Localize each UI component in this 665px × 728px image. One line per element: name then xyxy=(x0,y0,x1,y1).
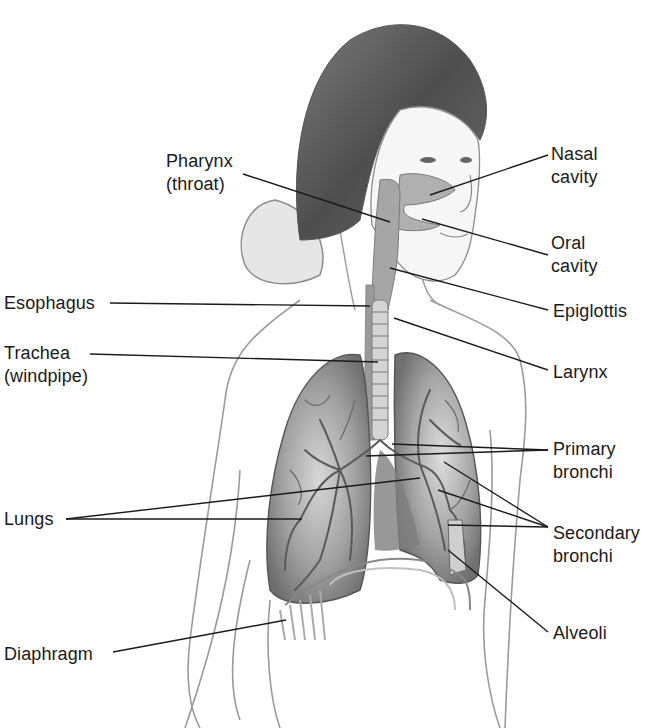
label-pharynx: Pharynx (throat) xyxy=(166,150,233,196)
label-trachea: Trachea (windpipe) xyxy=(4,342,88,388)
right-lung-figure xyxy=(394,353,480,583)
respiratory-diagram: Pharynx (throat) Nasal cavity Oral cavit… xyxy=(0,0,665,728)
trachea-rings xyxy=(372,300,388,440)
label-primary-bronchi: Primary bronchi xyxy=(553,438,616,484)
label-larynx: Larynx xyxy=(553,361,608,384)
label-oral-cavity: Oral cavity xyxy=(551,232,598,278)
eye-left xyxy=(420,157,436,163)
eye-right xyxy=(460,157,472,163)
label-diaphragm: Diaphragm xyxy=(4,643,93,666)
label-lungs: Lungs xyxy=(4,508,54,531)
label-nasal-cavity: Nasal cavity xyxy=(551,143,598,189)
label-epiglottis: Epiglottis xyxy=(553,300,627,323)
label-secondary-bronchi: Secondary bronchi xyxy=(553,522,640,568)
label-esophagus: Esophagus xyxy=(4,292,95,315)
label-alveoli: Alveoli xyxy=(553,622,607,645)
